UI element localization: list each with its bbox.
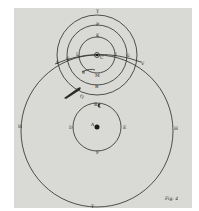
- astronomical-diagram: T P K C L G S I G V g M R Q B D E F A H …: [0, 0, 199, 211]
- label-center: C: [100, 55, 104, 60]
- label-comet: Q: [80, 94, 84, 99]
- label-orbit-left: D: [69, 125, 73, 130]
- label-sun: A: [90, 122, 95, 127]
- label-top-outer: T: [96, 9, 99, 14]
- label-left-outer: S: [56, 60, 59, 65]
- label-left-mid: G: [66, 56, 70, 61]
- label-left-inner: L: [76, 52, 79, 57]
- label-g: g: [82, 69, 85, 74]
- label-outer-left: H: [18, 124, 22, 129]
- label-outer-bottom: T: [91, 204, 94, 209]
- label-top-mid: P: [96, 22, 99, 27]
- label-right-mid: G: [126, 53, 130, 58]
- label-right-outer: V: [140, 61, 145, 66]
- figure-caption: Fig. 4: [165, 196, 178, 201]
- label-orbit-bottom: F: [96, 150, 99, 155]
- crescent-icon: [98, 104, 101, 108]
- label-right-inner: I: [115, 52, 117, 57]
- label-outer-right: H: [174, 126, 178, 131]
- center-body: [96, 54, 98, 56]
- comet-icon: [64, 87, 81, 99]
- label-inner-bottom: M: [95, 73, 100, 78]
- sun-body: [95, 125, 100, 130]
- label-orbit-right: E: [123, 125, 126, 130]
